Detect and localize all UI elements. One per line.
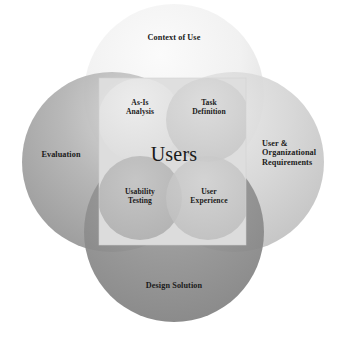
venn-shapes xyxy=(0,0,345,339)
venn-diagram: Context of Use Evaluation User & Organiz… xyxy=(0,0,345,339)
circle-user-experience xyxy=(166,156,250,240)
circle-task-definition xyxy=(166,78,250,162)
